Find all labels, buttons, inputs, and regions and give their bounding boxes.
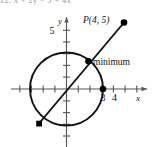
label-minimum: minimum	[93, 57, 131, 67]
point-p-marker	[121, 19, 128, 26]
label-y-tick-5: 5	[50, 25, 55, 36]
label-x-tick-3: 3	[101, 92, 106, 103]
math-figure: 12. x + 2y = 5 + 4x	[0, 0, 155, 147]
line-segment-to-p	[39, 23, 124, 124]
label-x-axis: x	[135, 93, 140, 103]
label-x-tick-4: 4	[112, 92, 117, 103]
coordinate-plane: P(4, 5) minimum 5 3 4 x y	[0, 0, 155, 147]
y-axis-arrow-icon	[64, 17, 68, 23]
label-point-p: P(4, 5)	[82, 15, 109, 26]
label-y-axis: y	[57, 16, 62, 26]
point-maximum-marker	[36, 121, 42, 127]
point-minimum-marker	[85, 58, 92, 65]
x-axis-arrow-icon	[142, 87, 148, 91]
